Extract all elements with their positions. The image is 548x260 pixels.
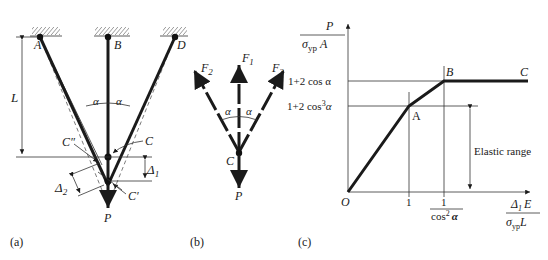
panel-a: A B D L α α C″ C C′ Δ1 Δ2 P (a) [10,27,188,249]
angle-left-b: α [225,105,231,117]
label-delta1: Δ1 [146,162,159,179]
panel-b: α α F1 F2 F2 C P (b) [190,51,284,249]
label-C-double-prime: C″ [62,135,76,149]
svg-text:σypA: σypA [302,37,328,53]
point-label-C: C [520,65,529,79]
label-C-prime: C′ [128,189,139,203]
bar-DC [108,37,175,185]
label-C: C [145,134,154,148]
x-tick-1: 1 [406,196,412,208]
svg-text:cos2α: cos2α [431,209,459,222]
panel-label-c: (c) [298,235,311,249]
support-A [30,27,62,36]
label-C-b: C [226,154,235,168]
point-label-B: B [446,65,454,79]
label-F2-right: F2 [271,61,284,77]
svg-text:1: 1 [441,196,447,208]
label-F1: F1 [241,51,254,67]
label-B: B [114,38,122,52]
delta2-dimension [73,177,80,193]
x-axis-label: Δ1E σypL [506,197,540,231]
bar-AC [40,37,108,185]
load-deflection-curve [348,81,528,192]
elastic-range-label: Elastic range [474,145,531,157]
angle-right: α [116,95,122,107]
y-tick-upper: 1+2 cos α [288,75,331,87]
panel-label-b: (b) [190,235,204,249]
label-D: D [176,38,186,52]
svg-text:Δ1E: Δ1E [510,197,532,213]
angle-left: α [93,95,99,107]
label-F2-left: F2 [200,61,213,77]
label-A: A [33,38,42,52]
label-L: L [10,90,18,105]
diagram-canvas: A B D L α α C″ C C′ Δ1 Δ2 P (a) [0,0,548,260]
x-tick-2: 1 cos2α [430,196,463,222]
label-delta2: Δ2 [54,180,68,197]
label-P-b: P [234,189,243,203]
angle-right-b: α [246,105,252,117]
panel-c: P σypA 1+2 cos α 1+2 cos3α A B C Elastic… [287,19,540,249]
joint-B [105,34,111,40]
panel-label-a: (a) [10,235,23,249]
origin-label: O [341,195,350,209]
svg-text:P: P [325,19,334,33]
force-F2-left [194,70,239,152]
y-tick-lower: 1+2 cos3α [287,99,332,112]
label-P: P [103,211,112,225]
point-label-A: A [412,109,421,123]
svg-text:σypL: σypL [506,215,527,231]
support-B [94,27,130,36]
y-axis-label: P σypA [300,19,345,53]
